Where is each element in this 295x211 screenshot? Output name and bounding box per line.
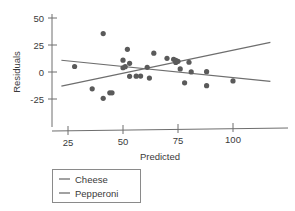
legend: Cheese Pepperoni <box>53 170 141 203</box>
data-point <box>127 74 132 79</box>
data-point <box>175 59 180 64</box>
data-point <box>145 65 150 70</box>
data-point <box>230 78 235 83</box>
data-point <box>109 90 114 95</box>
data-point <box>123 64 128 69</box>
data-point <box>72 64 77 69</box>
data-point <box>125 47 130 52</box>
data-point <box>147 75 152 80</box>
data-point <box>204 69 209 74</box>
data-points <box>72 31 236 101</box>
data-point <box>178 66 183 71</box>
data-point <box>204 83 209 88</box>
data-point <box>120 58 125 63</box>
x-tick-label-100: 100 <box>225 134 241 145</box>
y-axis-title: Residuals <box>11 51 22 93</box>
legend-label-pepperoni: Pepperoni <box>75 188 118 199</box>
x-tick-label-75: 75 <box>173 135 184 146</box>
legend-label-cheese: Cheese <box>75 174 108 185</box>
y-tick-label-0: 0 <box>39 67 44 78</box>
regression-line-pepperoni <box>61 60 270 81</box>
x-axis-title: Predicted <box>140 151 180 162</box>
data-point <box>164 56 169 61</box>
data-point <box>189 69 194 74</box>
regression-line-cheese <box>61 42 270 86</box>
data-point <box>101 31 106 36</box>
chart-container: 50 25 0 -25 25 50 75 100 Predicted Resid… <box>0 0 295 211</box>
residual-scatter-plot: 50 25 0 -25 25 50 75 100 Predicted Resid… <box>0 0 295 211</box>
x-tick-label-25: 25 <box>63 137 74 148</box>
x-axis-line <box>52 128 288 131</box>
data-point <box>182 80 187 85</box>
y-tick-label-neg25: -25 <box>30 94 44 105</box>
y-tick-label-25: 25 <box>33 40 44 51</box>
x-tick-label-50: 50 <box>118 136 129 147</box>
y-tick-label-50: 50 <box>33 13 44 24</box>
data-point <box>138 73 143 78</box>
regression-lines <box>61 42 270 86</box>
data-point <box>101 96 106 101</box>
data-point <box>186 60 191 65</box>
data-point <box>151 51 156 56</box>
data-point <box>127 61 132 66</box>
data-point <box>90 86 95 91</box>
